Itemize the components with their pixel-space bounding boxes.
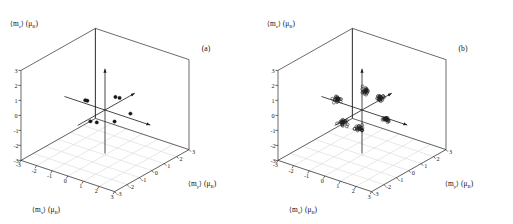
- x-axis-negative: [321, 96, 362, 110]
- y-axis-arrow: [362, 93, 392, 110]
- data-point: [129, 112, 132, 115]
- data-point: [84, 99, 87, 102]
- z-tick-label: 2: [14, 82, 17, 89]
- z-tick-label: 2: [271, 82, 274, 89]
- axis-title-z: ⟨mz⟩ (μB): [10, 19, 38, 29]
- y-tick-label: -2: [386, 183, 391, 190]
- y-tick-label: 3: [449, 148, 452, 155]
- z-tick-label: -3: [270, 157, 275, 164]
- y-tick-label: -1: [398, 176, 403, 183]
- x-tick-label: -1: [47, 172, 52, 179]
- y-tick-label: -3: [374, 190, 379, 197]
- y-tick-label: 3: [192, 148, 195, 155]
- axis-title-x: ⟨mx⟩ (μB): [32, 205, 61, 215]
- data-point: [118, 96, 121, 99]
- data-point: [89, 120, 92, 123]
- y-tick-label: -3: [117, 190, 122, 197]
- y-tick-label: -1: [141, 176, 146, 183]
- panel-a: -3-3-3-2-2-2-1-1-1000111222333⟨mx⟩ (μB)⟨…: [0, 0, 256, 224]
- x-tick-label: 0: [64, 177, 67, 184]
- x-tick-label: 2: [352, 187, 355, 194]
- y-tick-label: 1: [424, 162, 427, 169]
- panel-a-plot: -3-3-3-2-2-2-1-1-1000111222333⟨mx⟩ (μB)⟨…: [0, 0, 256, 224]
- data-point: [95, 121, 98, 124]
- y-tick-label: 2: [437, 155, 440, 162]
- x-tick-label: -2: [288, 167, 293, 174]
- y-tick: [409, 171, 411, 173]
- panel-b: -3-3-3-2-2-2-1-1-1000111222333⟨mx⟩ (μB)⟨…: [257, 0, 513, 224]
- panel-label: (b): [459, 44, 468, 53]
- x-tick-label: 2: [95, 187, 98, 194]
- panel-b-plot: -3-3-3-2-2-2-1-1-1000111222333⟨mx⟩ (μB)⟨…: [257, 0, 513, 224]
- z-tick-label: -2: [270, 142, 275, 149]
- y-tick: [177, 157, 179, 159]
- z-tick-label: -2: [13, 142, 18, 149]
- y-tick-label: 1: [167, 162, 170, 169]
- x-tick-label: 3: [110, 193, 113, 200]
- figure-3d-magnetic-moment-scatter: -3-3-3-2-2-2-1-1-1000111222333⟨mx⟩ (μB)⟨…: [0, 0, 513, 224]
- y-axis-arrow: [105, 93, 135, 110]
- y-tick-label: 2: [180, 155, 183, 162]
- y-tick-label: 0: [412, 169, 415, 176]
- x-tick-label: -1: [304, 172, 309, 179]
- data-point: [113, 120, 116, 123]
- axis-title-z: ⟨mz⟩ (μB): [267, 19, 295, 29]
- y-axis-negative: [78, 110, 105, 125]
- y-tick-label: -2: [129, 183, 134, 190]
- y-tick: [421, 164, 423, 166]
- x-tick-label: 1: [79, 182, 82, 189]
- z-tick-label: 3: [14, 67, 17, 74]
- z-tick-label: 1: [14, 97, 17, 104]
- x-tick-label: 3: [367, 193, 370, 200]
- panel-label: (a): [202, 44, 211, 53]
- x-tick-label: 1: [336, 182, 339, 189]
- data-point: [332, 101, 335, 104]
- z-tick-label: -1: [270, 127, 275, 134]
- z-tick-label: -3: [13, 157, 18, 164]
- y-tick: [189, 150, 191, 152]
- z-tick-label: 3: [271, 67, 274, 74]
- x-axis-arrow: [105, 110, 150, 125]
- y-tick-label: 0: [155, 169, 158, 176]
- z-tick-label: -1: [13, 127, 18, 134]
- y-tick: [446, 150, 448, 152]
- y-tick: [152, 171, 154, 173]
- y-tick: [164, 164, 166, 166]
- axis-title-y: ⟨my⟩ (μB): [445, 179, 474, 189]
- z-tick-label: 1: [271, 97, 274, 104]
- x-tick-label: -2: [31, 167, 36, 174]
- y-tick: [434, 157, 436, 159]
- axis-title-y: ⟨my⟩ (μB): [188, 179, 217, 189]
- data-point: [361, 85, 364, 88]
- z-tick-label: 0: [14, 112, 17, 119]
- x-tick-label: 0: [321, 177, 324, 184]
- axis-title-x: ⟨mx⟩ (μB): [289, 205, 318, 215]
- z-tick-label: 0: [271, 112, 274, 119]
- data-point: [114, 95, 117, 98]
